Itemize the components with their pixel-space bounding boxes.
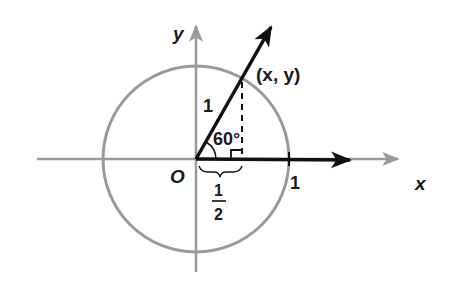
- unit-circle-diagram: y x O (x, y) 1 60° 1 1 2: [0, 0, 452, 299]
- half-brace: [199, 166, 242, 177]
- right-angle-marker: [231, 150, 242, 158]
- x-intercept-label: 1: [290, 173, 300, 193]
- x-vector: [196, 159, 350, 160]
- origin-label: O: [170, 166, 185, 187]
- point-label: (x, y): [256, 64, 300, 85]
- angle-label: 60°: [213, 129, 240, 149]
- half-denominator: 2: [214, 206, 223, 223]
- x-axis-label: x: [414, 173, 427, 194]
- half-numerator: 1: [214, 182, 223, 199]
- radius-label: 1: [203, 96, 213, 116]
- y-axis-label: y: [172, 23, 185, 44]
